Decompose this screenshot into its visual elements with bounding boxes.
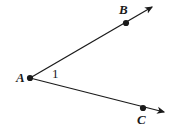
point-b-label: B (119, 3, 128, 16)
geometry-canvas (0, 0, 174, 136)
ray-ab (30, 7, 152, 78)
point-b-dot (123, 20, 129, 26)
point-a-label: A (16, 71, 25, 84)
geometry-diagram: A B C 1 (0, 0, 174, 136)
point-c-label: C (137, 113, 146, 126)
point-a-dot (27, 75, 33, 81)
point-c-dot (140, 105, 146, 111)
angle-1-label: 1 (52, 67, 59, 80)
